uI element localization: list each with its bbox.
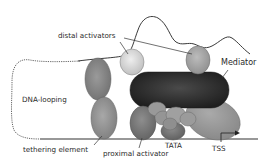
- transcription-diagram: [0, 0, 271, 168]
- gtf-blob: [163, 118, 177, 130]
- label-tss: TSS: [212, 145, 226, 152]
- distal-activator-2: [186, 46, 210, 74]
- distal-activator-1: [120, 49, 144, 75]
- label-tata: TATA: [165, 142, 182, 149]
- gtf-blob: [180, 112, 196, 126]
- label-dna-looping: DNA-looping: [22, 96, 67, 103]
- mediator-complex: [130, 72, 229, 108]
- tethering-element-top: [85, 58, 111, 100]
- label-tethering-element: tethering element: [23, 146, 88, 153]
- label-distal-activators: distal activators: [58, 32, 116, 39]
- pointer-mediator: [222, 70, 228, 78]
- label-mediator: Mediator: [221, 59, 256, 67]
- tethering-element-bottom: [91, 97, 117, 139]
- pointer-tethering: [94, 136, 102, 145]
- label-proximal-activator: proximal activator: [103, 150, 168, 157]
